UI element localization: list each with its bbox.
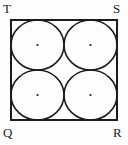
vertex-label-t: T — [3, 2, 11, 15]
vertex-label-r: R — [113, 126, 122, 139]
center-dot-bottom-left — [36, 94, 38, 96]
center-dot-top-right — [89, 44, 91, 46]
center-dot-top-left — [36, 44, 38, 46]
vertex-label-q: Q — [3, 126, 12, 139]
vertex-label-s: S — [113, 2, 120, 15]
square-qrst — [11, 20, 117, 120]
center-dot-bottom-right — [89, 94, 91, 96]
figure-canvas — [0, 0, 128, 145]
geometry-figure: T S Q R — [0, 0, 128, 145]
